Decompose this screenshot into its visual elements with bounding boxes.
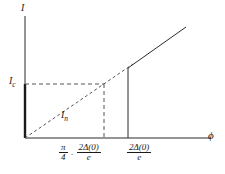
plot-canvas (0, 0, 225, 174)
multiplication-dot: · (70, 150, 75, 159)
critical-current-label: Ic (9, 76, 16, 86)
critical-current-subscript: c (12, 80, 15, 89)
fraction-2delta-over-e: 2Δ(0) e (77, 143, 101, 163)
fraction-denominator: 4 (59, 153, 68, 163)
normal-current-dashed-line (25, 64, 133, 138)
fraction-denominator: e (77, 153, 101, 163)
fraction-denominator: e (127, 153, 151, 163)
iv-characteristic-figure: I ϕ Ic In π 4 · 2Δ(0) e 2Δ(0) e (0, 0, 225, 174)
x-axis-label: ϕ (208, 130, 214, 141)
x-tick-label-2: 2Δ(0) e (127, 143, 151, 163)
normal-current-subscript: n (64, 114, 68, 123)
quasiparticle-branch-line (128, 27, 186, 68)
normal-current-label: In (61, 110, 68, 120)
fraction-pi-over-4: π 4 (59, 143, 68, 163)
fraction-2delta-over-e: 2Δ(0) e (127, 143, 151, 163)
x-tick-label-1: π 4 · 2Δ(0) e (59, 143, 101, 163)
y-axis-label: I (21, 3, 24, 13)
